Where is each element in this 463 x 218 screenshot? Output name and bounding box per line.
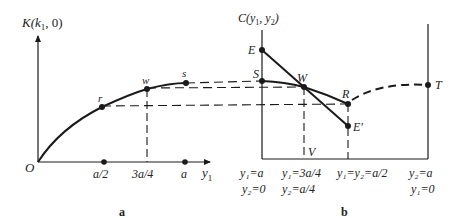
point-R-label: R xyxy=(341,87,350,101)
x-label-3-line1: y₁=y₂=a/2 xyxy=(336,166,388,180)
point-W-label: W xyxy=(297,71,308,85)
dash-w-horizontal xyxy=(147,87,304,88)
tick-label-a-half: a/2 xyxy=(93,167,108,181)
point-E-label: E xyxy=(247,43,256,57)
diagram-canvas: K(k1, 0) O y1 r w s a/2 3a/4 a a xyxy=(0,0,463,218)
x-label-1-line2: y₂=0 xyxy=(241,182,266,196)
point-R xyxy=(345,101,351,107)
x-label-2-line1: y₁=3a/4 xyxy=(281,166,321,180)
origin-label: O xyxy=(25,160,35,175)
panel-b: C(y1, y2) E S W R E′ T V y₁=a y₂=0 y₁=3a… xyxy=(238,11,443,218)
x-label-4-line2: y₁=0 xyxy=(410,182,435,196)
tick-label-3a-quarter: 3a/4 xyxy=(131,167,153,181)
k-curve xyxy=(38,83,186,162)
point-S xyxy=(259,78,265,84)
point-s xyxy=(183,80,189,86)
tick-a-half xyxy=(101,159,107,165)
panel-b-caption: b xyxy=(341,205,348,218)
point-T-label: T xyxy=(435,78,443,92)
point-w-label: w xyxy=(142,74,150,86)
dash-r-horizontal xyxy=(102,104,348,106)
point-w xyxy=(144,86,150,92)
panel-b-y-axis-label: C(y1, y2) xyxy=(238,11,279,27)
tick-a xyxy=(182,159,188,165)
point-r xyxy=(99,104,105,110)
dash-s-horizontal xyxy=(186,81,262,83)
point-E xyxy=(259,47,265,53)
x-label-4-line1: y₂=a xyxy=(408,166,433,180)
point-E-prime-label: E′ xyxy=(352,120,363,134)
panel-a-caption: a xyxy=(119,205,125,218)
tick-label-a: a xyxy=(181,167,187,181)
dashed-curve-r-to-t xyxy=(352,85,428,100)
point-E-prime xyxy=(345,123,351,129)
point-r-label: r xyxy=(98,92,103,104)
panel-a-y-axis-label: K(k1, 0) xyxy=(21,15,63,32)
panel-a-x-axis-label: y1 xyxy=(200,165,212,183)
point-T xyxy=(425,82,431,88)
x-label-2-line2: y₂=a/4 xyxy=(281,182,315,196)
point-V-label: V xyxy=(308,145,317,159)
point-s-label: s xyxy=(182,67,186,79)
point-S-label: S xyxy=(253,67,259,81)
x-label-1-line1: y₁=a xyxy=(239,166,264,180)
